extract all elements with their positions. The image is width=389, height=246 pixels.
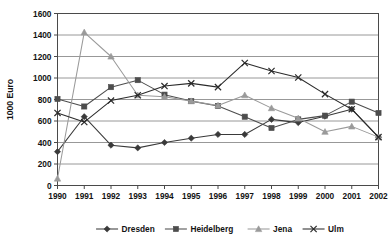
data-point xyxy=(108,85,113,90)
data-point xyxy=(135,145,141,151)
x-tick-label: 1997 xyxy=(236,191,255,201)
data-point xyxy=(269,125,274,130)
y-tick-label: 400 xyxy=(38,138,52,148)
x-tick-label: 1993 xyxy=(129,191,148,201)
data-point xyxy=(349,123,355,129)
legend-item-heidelberg[interactable]: Heidelberg xyxy=(165,224,233,234)
x-axis: 1990199119921993199419951996199719981999… xyxy=(48,186,388,202)
data-point xyxy=(161,139,167,145)
data-point xyxy=(376,110,381,115)
legend-marker xyxy=(104,226,110,232)
data-point xyxy=(55,96,60,101)
data-point xyxy=(268,105,274,111)
legend-label: Heidelberg xyxy=(190,224,233,234)
y-tick-label: 800 xyxy=(38,95,52,105)
y-tick-label: 200 xyxy=(38,159,52,169)
y-tick-label: 1600 xyxy=(33,9,52,19)
data-point xyxy=(54,175,60,181)
x-tick-label: 1996 xyxy=(209,191,228,201)
y-tick-label: 1000 xyxy=(33,73,52,83)
y-tick-label: 600 xyxy=(38,116,52,126)
x-tick-label: 2000 xyxy=(316,191,335,201)
data-point xyxy=(81,29,87,35)
data-point xyxy=(135,78,140,83)
data-point xyxy=(349,99,354,104)
y-tick-label: 0 xyxy=(47,181,52,191)
data-point xyxy=(322,91,328,97)
x-tick-label: 1998 xyxy=(262,191,281,201)
chart-canvas: 020040060080010001200140016001000 Euro19… xyxy=(0,0,389,246)
y-tick-label: 1200 xyxy=(33,52,52,62)
x-tick-label: 2001 xyxy=(343,191,362,201)
legend-item-jena[interactable]: Jena xyxy=(248,224,293,234)
legend-label: Jena xyxy=(273,224,292,234)
x-tick-label: 1990 xyxy=(48,191,67,201)
x-tick-label: 1992 xyxy=(102,191,121,201)
x-tick-label: 1991 xyxy=(75,191,94,201)
y-axis-title: 1000 Euro xyxy=(5,79,15,120)
data-point xyxy=(242,131,248,137)
data-point xyxy=(242,60,248,66)
data-point xyxy=(188,135,194,141)
data-point xyxy=(82,104,87,109)
legend-marker xyxy=(173,226,178,231)
data-point xyxy=(215,131,221,137)
x-tick-label: 1995 xyxy=(182,191,201,201)
series-jena xyxy=(54,29,381,181)
x-tick-label: 2002 xyxy=(369,191,388,201)
gridlines xyxy=(58,14,379,165)
x-tick-label: 1999 xyxy=(289,191,308,201)
data-point xyxy=(322,113,327,118)
legend-label: Dresden xyxy=(122,224,155,234)
legend-item-ulm[interactable]: Ulm xyxy=(303,224,344,234)
legend-item-dresden[interactable]: Dresden xyxy=(96,224,155,234)
data-point xyxy=(242,114,247,119)
series-line xyxy=(58,63,379,137)
y-axis: 02004006008001000120014001600 xyxy=(33,9,57,191)
y-tick-label: 1400 xyxy=(33,30,52,40)
series-ulm xyxy=(54,60,381,140)
data-point xyxy=(268,116,274,122)
legend: DresdenHeidelbergJenaUlm xyxy=(96,224,344,234)
x-tick-label: 1994 xyxy=(155,191,174,201)
line-chart: 020040060080010001200140016001000 Euro19… xyxy=(0,0,389,246)
legend-label: Ulm xyxy=(328,224,344,234)
data-point xyxy=(242,92,248,98)
